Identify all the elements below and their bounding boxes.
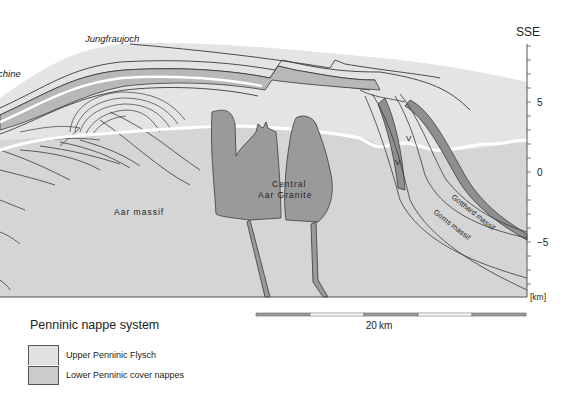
label-v-upper: V [406,134,412,143]
label-direction-sse: SSE [516,25,540,39]
scale-bar-segment [256,313,310,316]
depth-axis-tick-label: −5 [537,237,549,248]
label-v-lower: V [395,158,401,167]
label-left-cut: chine [0,68,21,79]
scale-bar [256,313,526,316]
scale-bar-segment [472,313,526,316]
legend: Penninic nappe system Upper Penninic Fly… [28,318,184,385]
label-central-granite-2: Aar Granite [258,190,312,200]
label-jungfraujoch: Jungfraujoch [84,33,139,44]
depth-axis: 50−5 [527,44,549,297]
depth-axis-tick-label: 0 [537,167,543,178]
depth-axis-unit: [km] [530,292,546,302]
scale-bar-segment [364,313,418,316]
legend-swatch-lower-cover [28,366,59,385]
scale-bar-segment [310,313,364,316]
scale-bar-label: 20 km [366,320,392,331]
legend-label-upper-flysch: Upper Penninic Flysch [66,350,156,360]
legend-item-upper-flysch: Upper Penninic Flysch [28,345,184,365]
label-central-granite-1: Central [272,179,306,189]
scale-bar-segment [418,313,472,316]
depth-axis-tick-label: 5 [537,97,543,108]
label-aar-massif: Aar massif [114,207,164,217]
legend-title: Penninic nappe system [30,318,184,332]
legend-label-lower-cover: Lower Penninic cover nappes [66,370,184,380]
legend-swatch-upper-flysch [28,345,59,365]
legend-item-lower-cover: Lower Penninic cover nappes [28,365,184,385]
